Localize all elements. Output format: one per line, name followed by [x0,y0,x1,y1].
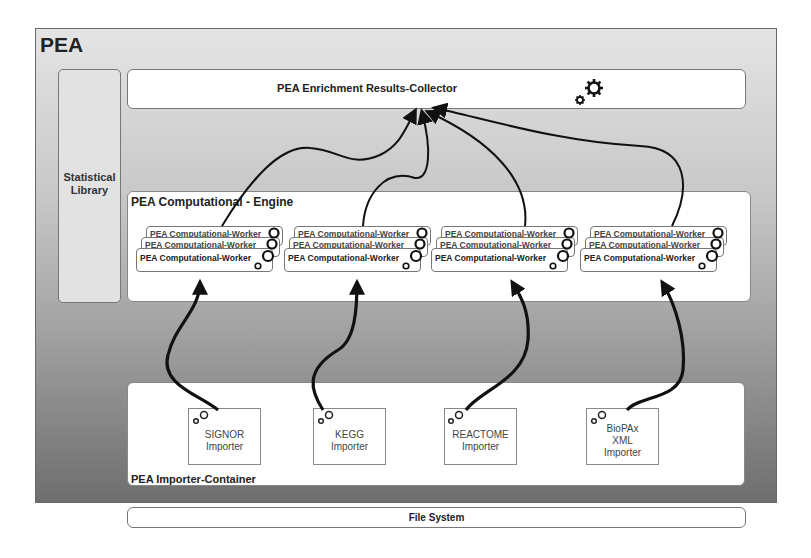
file-system-box: File System [127,507,746,528]
computational-engine-label: PEA Computational - Engine [131,195,293,209]
statistical-library-label: StatisticalLibrary [64,171,116,197]
worker-gears-icon [545,224,581,272]
importer-gears-icon [316,409,336,427]
pea-title: PEA [40,33,83,57]
importer-gears-icon [589,409,609,427]
results-collector-label: PEA Enrichment Results-Collector [127,82,607,94]
importer-gears-icon [446,409,466,427]
gears-icon [573,77,607,107]
worker-gears-icon [250,224,286,272]
statistical-library-box: StatisticalLibrary [58,69,121,303]
importer-container-label: PEA Importer-Container [131,473,256,485]
worker-gears-icon [694,224,730,272]
importer-gears-icon [191,409,211,427]
worker-gears-icon [398,224,434,272]
